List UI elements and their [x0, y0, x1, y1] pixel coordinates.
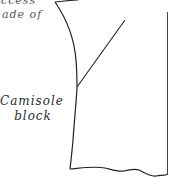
caption-fragment-1: ccess [1, 0, 36, 7]
block-label-line2: block [3, 109, 63, 123]
hem-wavy-edge [70, 167, 168, 176]
block-label-line1: Camisole [0, 94, 60, 108]
caption-fragment-2: ade of [2, 8, 42, 21]
dart-line [77, 20, 125, 87]
top-edge [55, 0, 78, 2]
side-seam-curve [55, 2, 77, 169]
